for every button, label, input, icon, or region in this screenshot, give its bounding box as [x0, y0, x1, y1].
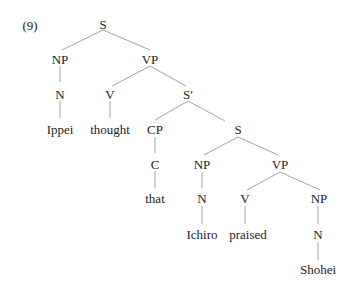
example-number: (9): [22, 18, 37, 33]
leaf-praised: praised: [229, 227, 267, 242]
node-S-root: S: [99, 17, 106, 32]
node-NP-embedded: NP: [194, 157, 211, 172]
node-S-embedded: S: [234, 122, 241, 137]
node-CP: CP: [147, 122, 163, 137]
node-S-bar: S′: [183, 87, 193, 102]
syntax-tree: (9) S NP VP N V S′ Ippei thought CP S C …: [0, 0, 357, 291]
node-C: C: [151, 157, 160, 172]
leaf-ippei: Ippei: [47, 122, 74, 137]
node-N-subject: N: [55, 87, 65, 102]
node-N-object: N: [313, 227, 323, 242]
leaf-ichiro: Ichiro: [186, 227, 217, 242]
node-N-embedded: N: [197, 191, 207, 206]
node-V-embedded: V: [240, 191, 250, 206]
node-NP-object: NP: [311, 191, 328, 206]
leaf-thought: thought: [90, 122, 130, 137]
leaf-that: that: [145, 191, 165, 206]
node-VP-embedded: VP: [272, 157, 289, 172]
node-VP-main: VP: [142, 52, 159, 67]
node-NP-subject: NP: [52, 52, 69, 67]
tree-edges: [60, 30, 320, 260]
node-V-main: V: [105, 87, 115, 102]
leaf-shohei: Shohei: [300, 262, 337, 277]
